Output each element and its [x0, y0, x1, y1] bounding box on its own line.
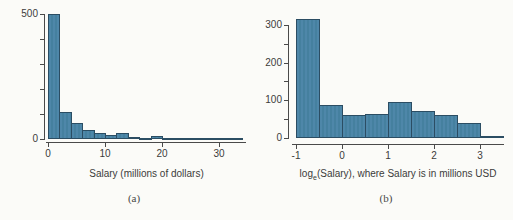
chart-b-x-tick [388, 145, 389, 149]
chart-a-x-tick-label: 0 [36, 148, 60, 160]
chart-b-y-tick [284, 119, 288, 120]
chart-b-x-tick-label: 1 [376, 150, 400, 162]
chart-a-y-tick [40, 39, 44, 40]
chart-a-y-tick [40, 89, 44, 90]
chart-b-histogram-bar [457, 123, 481, 138]
chart-a-caption: (a) [84, 192, 184, 205]
chart-b-y-tick-label: 0 [254, 132, 282, 144]
chart-b-histogram-bar [342, 115, 366, 138]
chart-b-histogram-bar [480, 136, 504, 138]
chart-b-x-tick-label: 0 [330, 150, 354, 162]
chart-b-x-tick [480, 145, 481, 149]
chart-a-y-tick [40, 114, 44, 115]
chart-b-y-tick [284, 25, 288, 26]
chart-b-x-tick-label: 3 [468, 150, 492, 162]
chart-a-x-axis-title-text: Salary (millions of dollars) [89, 168, 203, 179]
chart-a-y-tick [40, 139, 44, 140]
chart-a-y-tick-label: 0 [10, 133, 38, 145]
chart-b-histogram-bar [296, 19, 320, 138]
chart-a-x-tick-label: 20 [150, 148, 174, 160]
figure: Salary (millions of dollars) (a) loge(Sa… [0, 0, 513, 220]
chart-b-y-tick [284, 63, 288, 64]
chart-a-x-tick [105, 143, 106, 147]
chart-b-x-tick [342, 145, 343, 149]
chart-b-y-tick-label: 200 [254, 57, 282, 69]
chart-b-histogram-bar [319, 105, 343, 138]
chart-a-x-axis-title: Salary (millions of dollars) [48, 168, 245, 181]
chart-a-y-tick-label: 500 [10, 8, 38, 20]
chart-a-y-tick [40, 64, 44, 65]
chart-a-x-tick-label: 10 [93, 148, 117, 160]
chart-b-histogram-bar [411, 111, 435, 138]
chart-b-x-axis-line [292, 144, 504, 145]
chart-a-x-tick [219, 143, 220, 147]
chart-b-y-tick [284, 81, 288, 82]
chart-a-x-tick [162, 143, 163, 147]
chart-b-histogram-bar [434, 115, 458, 138]
chart-b-histogram-bar [388, 102, 412, 138]
chart-b-y-tick [284, 100, 288, 101]
chart-a-y-tick [40, 14, 44, 15]
chart-b-x-tick-label: -1 [284, 150, 308, 162]
chart-a-histogram-bar [230, 138, 242, 140]
chart-b-x-axis-title-post: (Salary), where Salary is in millions US… [317, 168, 497, 179]
chart-a-y-axis-line [44, 14, 45, 140]
chart-b-y-tick-label: 300 [254, 19, 282, 31]
chart-b-x-axis-title: loge(Salary), where Salary is in million… [286, 168, 510, 181]
chart-b-y-tick-label: 100 [254, 94, 282, 106]
chart-b-histogram-bar [365, 114, 389, 138]
chart-a-x-axis-line [46, 142, 246, 143]
chart-b-caption: (b) [336, 192, 436, 205]
chart-a-x-tick [48, 143, 49, 147]
chart-b-y-tick [284, 44, 288, 45]
chart-b-x-tick [434, 145, 435, 149]
chart-b-x-tick [296, 145, 297, 149]
chart-b-y-axis-line [288, 25, 289, 139]
chart-a-x-tick-label: 30 [207, 148, 231, 160]
chart-b-x-tick-label: 2 [422, 150, 446, 162]
chart-b-y-tick [284, 138, 288, 139]
chart-b-x-axis-title-text: log [300, 168, 313, 179]
